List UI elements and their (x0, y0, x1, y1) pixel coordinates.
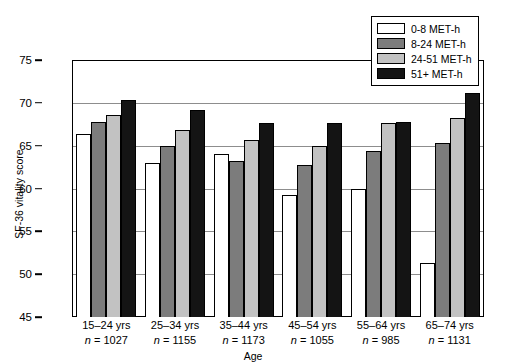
y-tick-mark (35, 102, 42, 104)
x-category-count: n = 1055 (278, 334, 347, 346)
x-category-label: 65–74 yrs (415, 319, 484, 331)
bar (91, 122, 106, 317)
x-category-count: n = 1173 (209, 334, 278, 346)
y-axis-title: SF-36 vitality score (13, 109, 25, 279)
legend-item: 8-24 MET-h (377, 36, 472, 51)
x-axis-title: Age (0, 350, 506, 362)
x-category: 55–64 yrsn = 985 (347, 319, 416, 346)
x-category: 15–24 yrsn = 1027 (72, 319, 141, 346)
legend-swatch (377, 38, 405, 49)
bar (312, 146, 327, 317)
x-category: 25–34 yrsn = 1155 (141, 319, 210, 346)
y-axis: 75706560555045 (0, 0, 72, 359)
x-category-label: 15–24 yrs (72, 319, 141, 331)
x-category: 45–54 yrsn = 1055 (278, 319, 347, 346)
legend-label: 51+ MET-h (411, 68, 463, 80)
legend-swatch (377, 68, 405, 79)
legend-swatch (377, 23, 405, 34)
legend: 0-8 MET-h8-24 MET-h24-51 MET-h51+ MET-h (371, 16, 479, 86)
bar-group (209, 60, 278, 317)
x-category-label: 25–34 yrs (141, 319, 210, 331)
bar (366, 151, 381, 317)
legend-label: 8-24 MET-h (411, 38, 466, 50)
bar-group (72, 60, 141, 317)
legend-label: 0-8 MET-h (411, 23, 460, 35)
x-category: 35–44 yrsn = 1173 (209, 319, 278, 346)
y-tick-mark (35, 316, 42, 318)
bar (450, 118, 465, 317)
legend-item: 24-51 MET-h (377, 51, 472, 66)
legend-item: 0-8 MET-h (377, 21, 472, 36)
x-category: 65–74 yrsn = 1131 (415, 319, 484, 346)
bar-group (278, 60, 347, 317)
y-tick-label: 70 (19, 97, 32, 109)
x-category-label: 45–54 yrs (278, 319, 347, 331)
bar-group (415, 60, 484, 317)
bar (396, 122, 411, 317)
x-category-count: n = 1155 (141, 334, 210, 346)
legend-item: 51+ MET-h (377, 66, 472, 81)
y-tick-label: 45 (19, 311, 32, 323)
bar (145, 163, 160, 317)
x-category-count: n = 1027 (72, 334, 141, 346)
legend-swatch (377, 53, 405, 64)
bar-groups (72, 60, 484, 317)
bar (327, 123, 342, 317)
y-tick-mark (35, 145, 42, 147)
y-tick-mark (35, 188, 42, 190)
bar (160, 146, 175, 317)
bar (351, 189, 366, 317)
bar-group (347, 60, 416, 317)
x-category-count: n = 985 (347, 334, 416, 346)
bar (76, 134, 91, 317)
bar-group (141, 60, 210, 317)
bar (244, 140, 259, 317)
bar (214, 154, 229, 317)
bar (175, 130, 190, 317)
x-axis-categories: 15–24 yrsn = 102725–34 yrsn = 115535–44 … (72, 319, 484, 346)
bar (190, 110, 205, 317)
bar (121, 100, 136, 317)
y-tick-mark (35, 273, 42, 275)
y-tick-label: 75 (19, 54, 32, 66)
bar (465, 93, 480, 317)
x-category-label: 35–44 yrs (209, 319, 278, 331)
bar (229, 161, 244, 317)
x-category-count: n = 1131 (415, 334, 484, 346)
bar (420, 263, 435, 317)
x-category-label: 55–64 yrs (347, 319, 416, 331)
bar (297, 165, 312, 317)
bar (282, 195, 297, 317)
bar (259, 123, 274, 317)
legend-label: 24-51 MET-h (411, 53, 472, 65)
bar (106, 115, 121, 317)
bar (381, 123, 396, 317)
bar (435, 143, 450, 317)
y-tick-mark (35, 59, 42, 61)
y-tick-mark (35, 231, 42, 233)
